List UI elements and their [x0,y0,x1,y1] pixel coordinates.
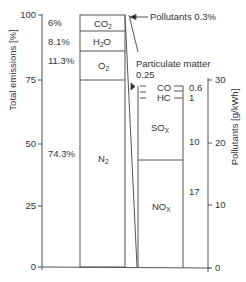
label-h2o: H2O [93,36,111,48]
particulate-arrow-icon [131,83,135,90]
hc-value: 1 [189,92,194,103]
left-tick-0: 0 [31,261,36,272]
pollutants-annotation: Pollutants 0.3% [150,11,217,22]
emissions-chart: 100 75 50 25 0 Total emissions [%] 6% 8.… [0,0,246,282]
left-tick-75: 75 [25,74,36,85]
left-tick-100: 100 [20,9,36,20]
particulate-matter-label: Particulate matter [136,58,210,69]
label-co2: CO2 [94,18,112,30]
left-tick-25: 25 [25,200,36,211]
right-tick-10: 10 [215,199,226,210]
pct-o2: 11.3% [48,55,75,66]
pct-co2: 6% [48,17,62,28]
total-emissions-column [80,15,125,267]
right-tick-30: 30 [215,74,226,85]
pct-n2: 74.3% [48,148,75,159]
nox-label: NOX [152,201,171,213]
left-axis-title: Total emissions [%] [7,29,18,110]
label-o2: O2 [98,60,109,72]
right-tick-0: 0 [215,262,220,273]
nox-value: 17 [189,186,200,197]
sox-label: SOX [151,122,170,134]
sox-value: 10 [189,136,200,147]
label-n2: N2 [98,153,109,165]
right-tick-20: 20 [215,137,226,148]
hc-label: HC [157,92,171,103]
left-tick-50: 50 [25,138,36,149]
right-axis-title: Pollutants [g/kWh] [229,89,240,166]
pct-h2o: 8.1% [48,36,70,47]
baseline [42,267,210,268]
particulate-matter-value: 0.25 [136,69,155,80]
pollutants-arrow-icon [130,15,136,20]
